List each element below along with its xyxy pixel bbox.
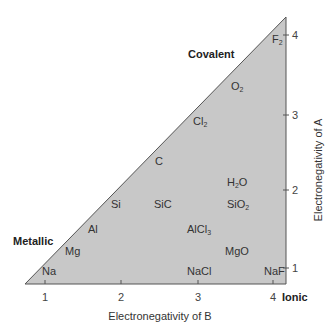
y-tick-1: 1: [292, 262, 298, 274]
compound-mg: Mg: [65, 245, 80, 257]
compound-mgo: MgO: [225, 245, 249, 257]
y-tick-2: 2: [292, 184, 298, 196]
x-tick-4: 4: [270, 291, 276, 303]
x-tick-1: 1: [42, 291, 48, 303]
compound-nacl: NaCl: [187, 265, 211, 277]
x-tick-3: 3: [195, 291, 201, 303]
y-tick-4: 4: [292, 29, 298, 41]
compound-na: Na: [42, 265, 57, 277]
ionic-label: Ionic: [282, 291, 308, 303]
bonding-triangle: [25, 17, 286, 284]
compound-si: Si: [111, 198, 121, 210]
y-axis-label: Electronegativity of A: [312, 118, 324, 221]
metallic-label: Metallic: [13, 235, 53, 247]
compound-c: C: [155, 155, 163, 167]
x-tick-2: 2: [118, 291, 124, 303]
compound-naf: NaF: [264, 265, 285, 277]
compound-sic: SiC: [154, 198, 172, 210]
covalent-label: Covalent: [188, 48, 235, 60]
bonding-triangle-diagram: 1 2 3 4 4 3 2 1 Covalent Metallic Ionic …: [0, 0, 331, 332]
y-tick-3: 3: [292, 109, 298, 121]
compound-al: Al: [88, 223, 98, 235]
x-axis-label: Electronegativity of B: [108, 310, 211, 322]
